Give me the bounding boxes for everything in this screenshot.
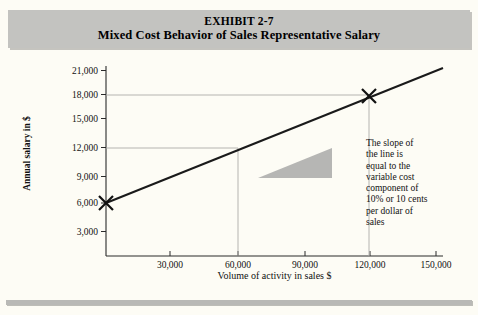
x-axis-title: Volume of activity in sales $	[106, 270, 443, 281]
y-tick-label-6000: 6,000	[50, 198, 98, 208]
y-axis-title-text: Annual salary in $	[22, 106, 33, 202]
chart-container: 21,000 18,000 15,000 12,000 9,000 6,000 …	[0, 48, 478, 300]
slope-annotation-line-2: the line is	[366, 149, 474, 160]
exhibit-title: Mixed Cost Behavior of Sales Representat…	[98, 28, 380, 43]
slope-annotation-line-6: 10% or 10 cents	[366, 194, 474, 205]
x-tick-label-120000: 120,000	[340, 260, 400, 270]
y-tick-label-21000: 21,000	[50, 66, 98, 76]
y-tick-label-12000: 12,000	[50, 143, 98, 153]
slope-annotation-line-5: component of	[366, 183, 474, 194]
y-tick-label-18000: 18,000	[50, 90, 98, 100]
y-tick-label-3000: 3,000	[50, 227, 98, 237]
x-tick-marks	[170, 251, 436, 256]
slope-annotation-line-4: variable cost	[366, 172, 474, 183]
slope-annotation-line-1: The slope of	[366, 138, 474, 149]
y-tick-label-9000: 9,000	[50, 172, 98, 182]
x-tick-label-150000: 150,000	[406, 260, 466, 270]
exhibit-header-band: EXHIBIT 2-7 Mixed Cost Behavior of Sales…	[8, 10, 470, 48]
bottom-divider-rule	[6, 300, 472, 305]
exhibit-number: EXHIBIT 2-7	[204, 15, 273, 27]
slope-annotation-line-7: per dollar of	[366, 206, 474, 217]
slope-annotation: The slope of the line is equal to the va…	[366, 138, 474, 228]
y-axis-title: Annual salary in $	[22, 106, 33, 202]
y-tick-label-15000: 15,000	[50, 114, 98, 124]
x-tick-label-30000: 30,000	[140, 260, 200, 270]
slope-triangle-shaded-region	[258, 148, 332, 178]
x-tick-label-90000: 90,000	[275, 260, 335, 270]
slope-annotation-line-3: equal to the	[366, 161, 474, 172]
slope-annotation-line-8: sales	[366, 217, 474, 228]
x-tick-label-60000: 60,000	[208, 260, 268, 270]
